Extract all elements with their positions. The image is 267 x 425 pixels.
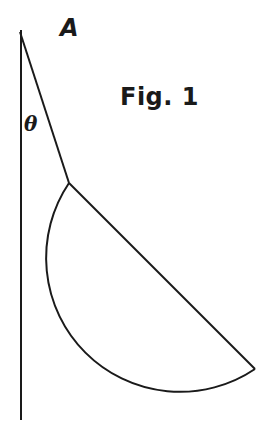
figure-caption: Fig. 1	[120, 83, 199, 111]
semicircle-hanging-diagram	[0, 0, 267, 425]
semicircle-arc	[46, 183, 255, 392]
point-a-label: A	[60, 14, 79, 42]
semicircle-diameter	[69, 183, 255, 369]
string-line	[20, 32, 69, 183]
angle-theta-label: θ	[24, 112, 37, 136]
